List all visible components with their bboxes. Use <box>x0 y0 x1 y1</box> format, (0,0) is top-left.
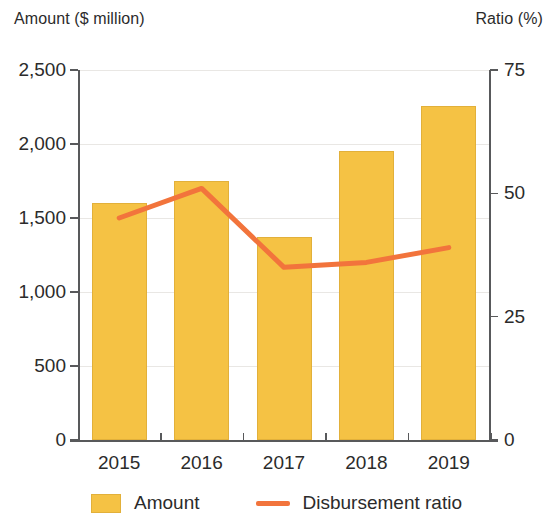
right-axis-tick-label: 0 <box>504 429 515 451</box>
left-axis-tick-label: 2,500 <box>18 59 66 81</box>
line-swatch-icon <box>256 501 290 506</box>
left-axis-tick <box>70 439 78 441</box>
left-axis-tick-label: 1,000 <box>18 281 66 303</box>
left-axis-tick-label: 500 <box>34 355 66 377</box>
x-axis-label: 2016 <box>180 452 222 474</box>
left-axis-title: Amount ($ million) <box>14 10 145 28</box>
left-axis-tick <box>70 143 78 145</box>
left-axis-tick <box>70 365 78 367</box>
right-axis-tick-label: 75 <box>504 59 525 81</box>
right-axis-tick-label: 50 <box>504 182 525 204</box>
left-axis-tick-label: 2,000 <box>18 133 66 155</box>
legend-item-amount: Amount <box>91 492 199 514</box>
bar-swatch-icon <box>91 494 121 513</box>
line-series-disbursement-ratio <box>78 70 490 441</box>
x-axis-label: 2018 <box>345 452 387 474</box>
x-axis-label: 2017 <box>263 452 305 474</box>
x-axis-label: 2015 <box>98 452 140 474</box>
left-axis-tick-label: 0 <box>55 429 66 451</box>
right-axis-tick <box>490 316 498 318</box>
left-axis-tick <box>70 217 78 219</box>
left-axis-tick <box>70 69 78 71</box>
right-axis-tick <box>490 69 498 71</box>
dual-axis-chart: Amount ($ million) Ratio (%) 05001,0001,… <box>0 0 553 528</box>
right-axis-tick <box>490 193 498 195</box>
right-axis-tick-label: 25 <box>504 306 525 328</box>
plot-area: 05001,0001,5002,0002,500 0255075 2015201… <box>78 70 490 440</box>
left-axis-tick-label: 1,500 <box>18 207 66 229</box>
right-axis-title: Ratio (%) <box>475 10 543 28</box>
chart-legend: Amount Disbursement ratio <box>0 492 553 514</box>
legend-label-disbursement-ratio: Disbursement ratio <box>303 492 462 514</box>
left-axis-tick <box>70 291 78 293</box>
x-axis-label: 2019 <box>428 452 470 474</box>
x-axis-tick <box>490 433 492 441</box>
legend-label-amount: Amount <box>134 492 199 514</box>
legend-item-disbursement-ratio: Disbursement ratio <box>256 492 462 514</box>
